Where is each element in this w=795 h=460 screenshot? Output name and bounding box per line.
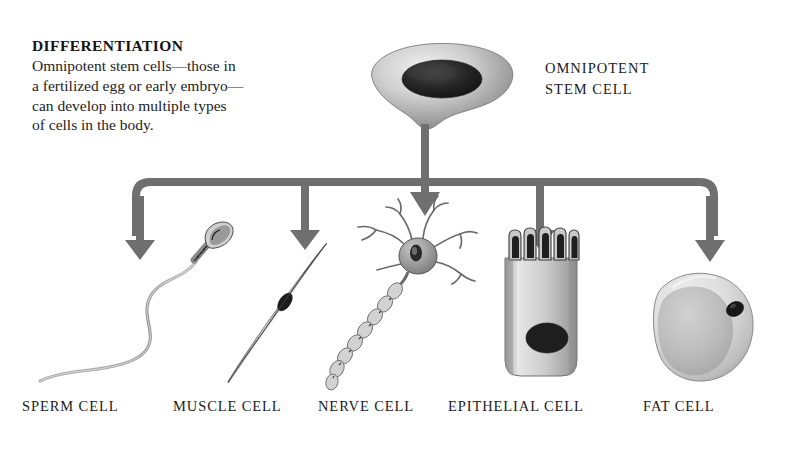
caption-epithelial-cell: EPITHELIAL CELL (448, 398, 584, 415)
caption-muscle-cell: MUSCLE CELL (173, 398, 282, 415)
vertical-stem-connector (421, 124, 429, 186)
differentiation-diagram: DIFFERENTIATION Omnipotent stem cells—th… (0, 0, 795, 460)
nerve-cell-icon (324, 196, 477, 391)
caption-fat-cell: FAT CELL (643, 398, 715, 415)
muscle-cell-icon (228, 243, 327, 383)
stem-cell-icon (372, 43, 513, 129)
branch-arrow-fat (695, 196, 725, 262)
branch-arrow-muscle (290, 186, 320, 250)
caption-nerve-cell: NERVE CELL (318, 398, 414, 415)
diagram-artwork (0, 0, 795, 460)
branch-arrow-sperm (125, 196, 155, 260)
epithelial-cell-icon (505, 227, 579, 376)
caption-sperm-cell: SPERM CELL (22, 398, 118, 415)
fat-cell-icon (653, 273, 753, 381)
